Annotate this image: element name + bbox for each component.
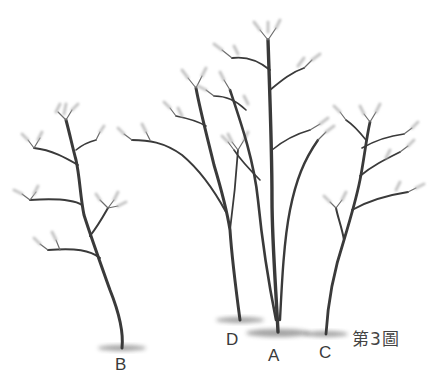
tree-label-d: D	[226, 331, 238, 348]
tree-label-b: B	[115, 356, 126, 373]
tree-b	[14, 104, 146, 351]
tree-c	[304, 104, 424, 337]
figure-caption: 第3圖	[352, 331, 400, 348]
tree-label-a: A	[268, 347, 279, 364]
tree-label-c: C	[319, 344, 331, 361]
